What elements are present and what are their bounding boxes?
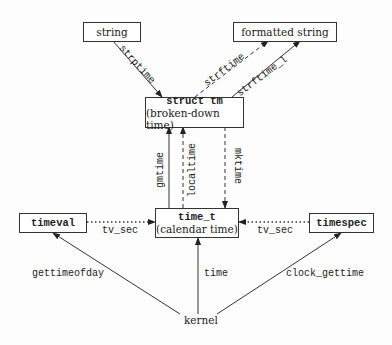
label-localtime: localtime (187, 143, 198, 197)
node-kernel: kernel (184, 314, 218, 326)
node-time-t: time_t (calendar time) (155, 208, 239, 238)
node-timespec: timespec (309, 213, 374, 233)
time-functions-diagram: string formatted string struct tm (broke… (0, 0, 392, 345)
node-formatted-string-label: formatted string (241, 26, 329, 38)
label-time: time (204, 268, 228, 279)
label-mktime: mktime (232, 148, 243, 184)
node-string: string (83, 22, 141, 42)
node-timespec-label: timespec (316, 217, 366, 229)
node-string-label: string (96, 26, 127, 38)
node-struct-tm: struct tm (broken-down time) (145, 97, 244, 128)
node-struct-tm-title: struct tm (166, 95, 223, 107)
node-timeval-label: timeval (31, 217, 75, 229)
node-time-t-title: time_t (178, 211, 216, 223)
node-struct-tm-subtitle: (broken-down time) (146, 107, 243, 131)
label-clock-gettime: clock_gettime (286, 268, 364, 279)
node-time-t-subtitle: (calendar time) (156, 223, 238, 235)
label-tv-sec-right: tv_sec (257, 225, 293, 236)
label-gettimeofday: gettimeofday (32, 268, 104, 279)
label-gmtime: gmtime (155, 152, 166, 188)
node-formatted-string: formatted string (233, 22, 337, 42)
label-tv-sec-left: tv_sec (102, 225, 138, 236)
node-timeval: timeval (19, 213, 87, 233)
